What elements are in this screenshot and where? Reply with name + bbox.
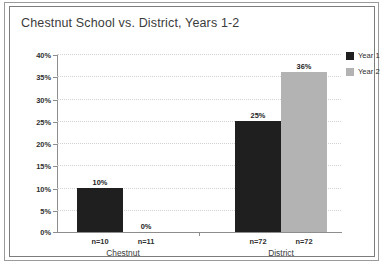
y-tick-mark-5 (53, 211, 57, 212)
bar-label-chestnut-year2: 0% (141, 222, 152, 231)
y-tick-mark-30 (53, 100, 57, 101)
y-tick-mark-15 (53, 166, 57, 167)
y-tick-label-35: 35% (36, 73, 51, 82)
y-tick-label-0: 0% (40, 228, 51, 237)
gridline-40: 40% (57, 54, 341, 55)
legend-item-year2[interactable]: Year 2 (346, 65, 380, 78)
y-tick-label-30: 30% (36, 95, 51, 104)
chart-title: Chestnut School vs. District, Years 1-2 (21, 16, 239, 30)
legend-swatch-year1-icon (346, 52, 354, 60)
chart-screenshot: Chestnut School vs. District, Years 1-2 … (0, 0, 389, 271)
n-label-chestnut-year1: n=10 (91, 237, 108, 246)
y-tick-mark-10 (53, 189, 57, 190)
y-tick-label-40: 40% (36, 51, 51, 60)
n-label-district-year2: n=72 (295, 237, 312, 246)
legend-label-year2: Year 2 (358, 67, 380, 76)
bar-label-chestnut-year1: 10% (93, 178, 108, 187)
y-tick-label-25: 25% (36, 117, 51, 126)
y-tick-mark-20 (53, 144, 57, 145)
legend-swatch-year2-icon (346, 68, 354, 76)
bar-district-year1[interactable] (235, 121, 281, 232)
y-tick-mark-35 (53, 77, 57, 78)
bar-label-district-year1: 25% (251, 111, 266, 120)
bar-label-district-year2: 36% (297, 62, 312, 71)
n-label-district-year1: n=72 (249, 237, 266, 246)
legend-label-year1: Year 1 (358, 51, 380, 60)
x-axis-group-label-district: District (268, 248, 294, 258)
y-tick-label-15: 15% (36, 162, 51, 171)
chart-panel: Chestnut School vs. District, Years 1-2 … (9, 6, 375, 257)
n-label-chestnut-year2: n=11 (138, 237, 155, 246)
plot-area: 40% 35% 30% 25% 20% 15% (57, 54, 341, 232)
y-tick-label-5: 5% (40, 206, 51, 215)
bar-chestnut-year1[interactable] (77, 188, 123, 233)
x-axis-group-label-chestnut: Chestnut (106, 248, 140, 258)
x-axis-group-separator (199, 232, 200, 236)
bar-district-year2[interactable] (281, 72, 327, 232)
legend-item-year1[interactable]: Year 1 (346, 49, 380, 62)
y-tick-mark-0 (53, 232, 57, 233)
y-tick-mark-25 (53, 122, 57, 123)
chart-legend: Year 1 Year 2 (346, 49, 380, 81)
y-tick-label-10: 10% (36, 184, 51, 193)
y-tick-label-20: 20% (36, 140, 51, 149)
y-tick-mark-40 (53, 55, 57, 56)
